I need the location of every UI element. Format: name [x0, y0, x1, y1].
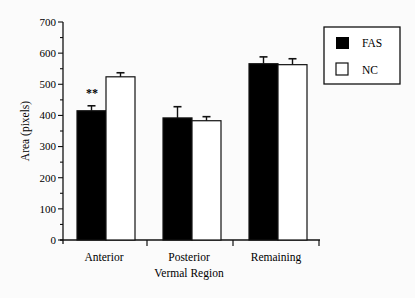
- category-label-posterior: Posterior: [168, 251, 210, 263]
- legend-label-nc: NC: [362, 64, 378, 76]
- chart: 700 600 500 400 300 200 100 0 Area (pixe…: [0, 0, 415, 298]
- y-tick-400: 400: [40, 109, 57, 121]
- y-tick-600: 600: [40, 47, 57, 59]
- y-tick-700: 700: [40, 16, 57, 28]
- legend-label-fas: FAS: [362, 37, 382, 49]
- x-axis: Anterior Posterior Remaining Vermal Regi…: [60, 240, 320, 280]
- y-tick-100: 100: [40, 203, 57, 215]
- category-label-remaining: Remaining: [251, 251, 302, 264]
- y-tick-500: 500: [40, 78, 57, 90]
- y-tick-200: 200: [40, 172, 57, 184]
- bar-fas-posterior: [163, 118, 192, 240]
- legend: FAS NC: [324, 27, 400, 84]
- significance-marker: **: [86, 86, 98, 100]
- x-axis-label: Vermal Region: [154, 267, 224, 280]
- bar-fas-anterior: [77, 111, 106, 240]
- y-tick-300: 300: [40, 140, 57, 152]
- y-tick-0: 0: [51, 234, 57, 246]
- bar-fas-remaining: [249, 64, 278, 240]
- bar-nc-remaining: [278, 65, 307, 240]
- legend-swatch-nc: [336, 63, 348, 75]
- bars: [77, 57, 307, 240]
- y-axis-label: Area (pixels): [19, 101, 32, 162]
- category-label-anterior: Anterior: [85, 251, 124, 263]
- y-axis: 700 600 500 400 300 200 100 0 Area (pixe…: [19, 16, 63, 246]
- bar-nc-posterior: [192, 121, 221, 240]
- bar-nc-anterior: [106, 77, 135, 240]
- legend-swatch-fas: [336, 37, 349, 49]
